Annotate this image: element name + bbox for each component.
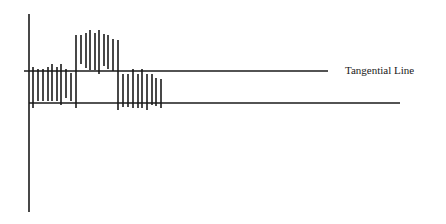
group-above: [76, 30, 118, 74]
tangential-line-diagram: [0, 0, 446, 224]
bar-groups: [33, 30, 161, 110]
group-below-2: [118, 69, 161, 110]
tangential-line-label: Tangential Line: [345, 64, 414, 76]
